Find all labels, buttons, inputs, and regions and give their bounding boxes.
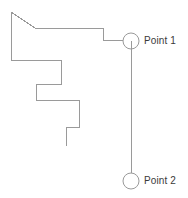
- point-1-label: Point 1: [144, 35, 176, 47]
- diagram-canvas: Point 1 Point 2: [0, 0, 188, 198]
- boundary-outline-path: [11, 12, 123, 40]
- point-2-label: Point 2: [144, 175, 176, 187]
- diagram-vector-graphic: [0, 0, 188, 198]
- point-2-marker-circle[interactable]: [123, 173, 139, 189]
- staircase-outline-path: [11, 12, 79, 146]
